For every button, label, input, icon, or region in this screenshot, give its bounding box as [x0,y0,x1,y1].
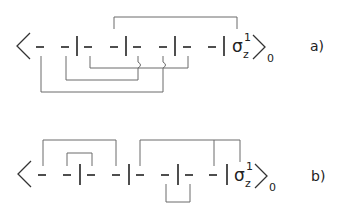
left-angle-bracket-b [18,161,31,187]
right-angle-bracket-a [253,35,265,59]
sigma-superscript-b: 1 [246,160,253,173]
right-angle-bracket-b [255,164,267,188]
diagram-a: σ 1 z 0 a) [17,17,324,92]
bracket-subscript-a: 0 [267,52,274,65]
diagram-canvas: σ 1 z 0 a) σ 1 z [0,0,345,211]
lower-contraction-a-outer [41,56,163,92]
lower-contraction-b [166,184,190,202]
diagram-b: σ 1 z 0 b) [18,140,325,202]
lower-contraction-a-inner [90,56,188,68]
sigma-operator-a: σ [232,36,243,56]
diagram-label-b: b) [311,168,325,184]
bracket-subscript-b: 0 [269,181,276,194]
upper-contraction-a [114,17,237,29]
diagram-label-a: a) [310,38,324,54]
sigma-subscript-b: z [245,177,251,190]
crossing-bump-a-1 [138,56,141,68]
crossing-bump-a-2 [163,56,166,68]
left-angle-bracket-a [17,33,30,59]
sigma-superscript-a: 1 [244,31,251,44]
sigma-subscript-a: z [243,48,249,61]
upper-contraction-b-right [140,140,240,166]
sigma-operator-b: σ [234,165,245,185]
